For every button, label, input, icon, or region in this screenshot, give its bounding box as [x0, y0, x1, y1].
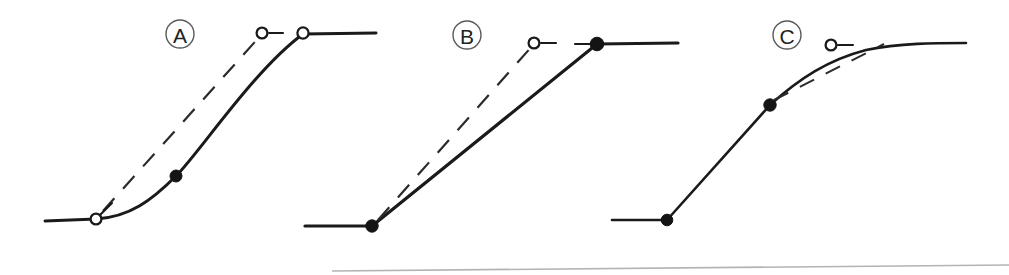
filled-point-c-1	[764, 99, 776, 111]
figure-root: ABC	[0, 0, 1009, 275]
figure-background	[0, 0, 1009, 275]
filled-point-b-2	[590, 37, 604, 51]
filled-point-c-0	[661, 214, 673, 226]
filled-point-b-0	[366, 220, 378, 232]
figure-canvas: ABC	[0, 0, 1009, 275]
open-point-c-2	[826, 40, 837, 51]
open-point-a-2	[257, 28, 268, 39]
open-point-a-3	[297, 27, 308, 38]
filled-point-a-1	[170, 170, 182, 182]
panel-label-c: C	[779, 25, 794, 48]
panel-label-b: B	[460, 25, 474, 48]
panel-label-a: A	[173, 24, 187, 47]
open-point-b-1	[529, 38, 540, 49]
open-point-a-0	[91, 214, 102, 225]
